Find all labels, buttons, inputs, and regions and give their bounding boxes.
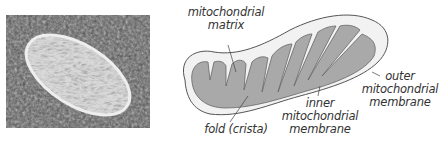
label-fold-crista: fold (crista) [196, 123, 276, 136]
label-line: matrix [186, 19, 266, 32]
label-line: fold (crista) [196, 123, 276, 136]
label-line: membrane [360, 96, 440, 109]
label-line: membrane [280, 123, 360, 136]
label-inner-membrane: inner mitochondrial membrane [280, 97, 360, 136]
label-mitochondrial-matrix: mitochondrial matrix [186, 6, 266, 32]
label-outer-membrane: outer mitochondrial membrane [360, 70, 440, 109]
